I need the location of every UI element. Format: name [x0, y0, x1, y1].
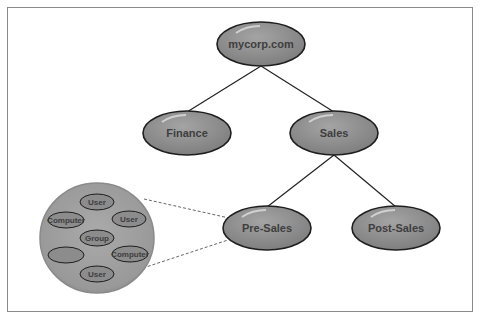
node-root-label: mycorp.com	[228, 38, 294, 50]
node-finance[interactable]: Finance	[143, 111, 231, 155]
svg-text:Group: Group	[85, 234, 109, 243]
detail-item-user-right[interactable]: User	[112, 211, 146, 227]
node-post-sales-label: Post-Sales	[368, 222, 424, 234]
detail-item-user-bottom[interactable]: User	[80, 266, 114, 282]
node-sales[interactable]: Sales	[290, 111, 378, 155]
node-pre-sales-label: Pre-Sales	[242, 222, 292, 234]
node-pre-sales[interactable]: Pre-Sales	[223, 206, 311, 250]
domain-tree-diagram: mycorp.com Finance Sales Pre-Sales Post-…	[0, 0, 479, 317]
node-root[interactable]: mycorp.com	[217, 22, 305, 66]
edge-root-sales	[261, 66, 334, 112]
edge-sales-presales	[267, 155, 334, 207]
zoom-line-top	[144, 199, 229, 218]
node-sales-label: Sales	[320, 127, 349, 139]
node-finance-label: Finance	[166, 127, 208, 139]
detail-item-user-top[interactable]: User	[80, 194, 114, 210]
detail-item-empty[interactable]	[48, 247, 84, 263]
zoom-connectors	[143, 199, 229, 268]
detail-item-computer-right[interactable]: Computer	[111, 246, 149, 262]
detail-item-group[interactable]: Group	[80, 230, 114, 246]
svg-text:Computer: Computer	[47, 216, 85, 225]
svg-text:User: User	[120, 215, 138, 224]
edge-root-finance	[187, 66, 261, 112]
detail-container: User Computer User Group Computer User	[40, 183, 154, 293]
detail-item-computer-left[interactable]: Computer	[47, 212, 85, 228]
svg-text:User: User	[88, 270, 106, 279]
svg-text:Computer: Computer	[111, 250, 149, 259]
zoom-line-bottom	[143, 240, 228, 268]
edge-sales-postsales	[334, 155, 396, 207]
svg-text:User: User	[88, 198, 106, 207]
node-post-sales[interactable]: Post-Sales	[352, 206, 440, 250]
